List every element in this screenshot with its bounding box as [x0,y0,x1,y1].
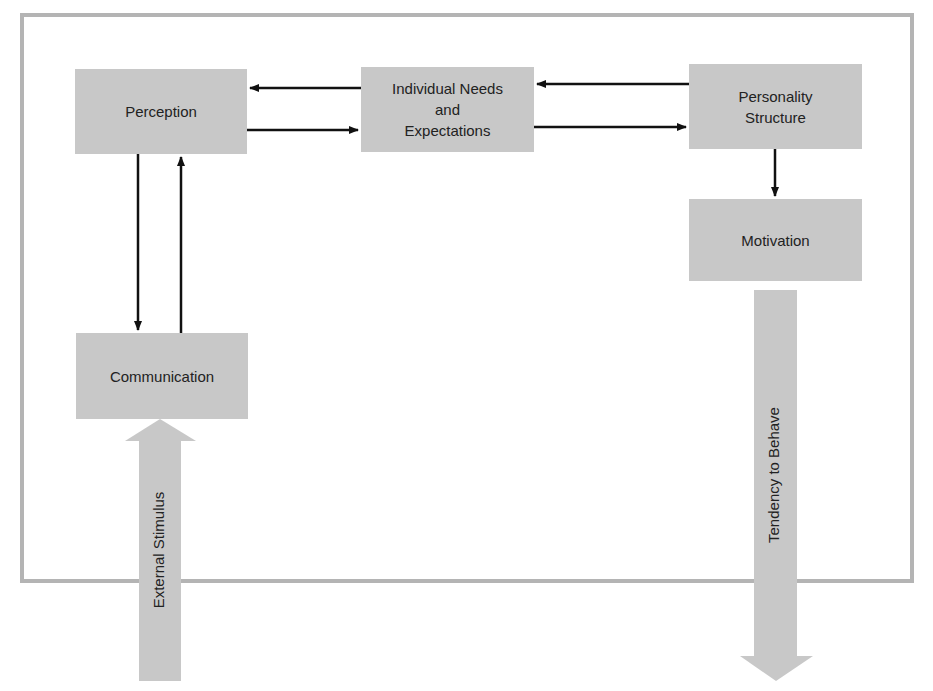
connector-arrows [0,0,933,691]
diagram: Perception Individual Needs and Expectat… [0,0,933,691]
tendency-to-behave-label: Tendency to Behave [765,400,785,550]
external-stimulus-label: External Stimulus [150,480,170,620]
